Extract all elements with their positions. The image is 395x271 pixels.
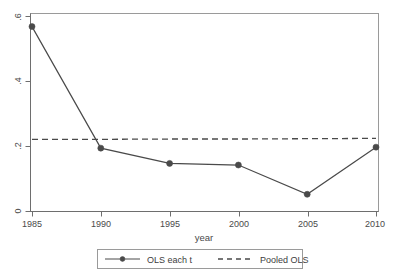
y-axis-ticks — [26, 17, 31, 212]
x-tick-label-0: 1985 — [22, 219, 42, 229]
y-tick-label-2: .4 — [13, 77, 23, 85]
series-pooled-ols-line — [32, 138, 376, 139]
x-tick-label-5: 2010 — [365, 219, 385, 229]
data-point-marker — [29, 24, 35, 30]
chart-figure: 0 .2 .4 .6 1985 1990 1995 2000 2005 2010… — [0, 0, 395, 271]
data-point-marker — [373, 144, 379, 150]
x-tick-label-2: 1995 — [160, 219, 180, 229]
legend-label-pooled-ols: Pooled OLS — [260, 255, 309, 265]
y-tick-label-3: .6 — [13, 13, 23, 21]
x-tick-label-3: 2000 — [229, 219, 249, 229]
series-ols-each-t-markers — [29, 24, 379, 198]
x-axis-ticks — [33, 212, 377, 217]
series-ols-each-t-line — [32, 27, 376, 195]
x-axis-title: year — [195, 232, 213, 243]
data-point-marker — [167, 160, 173, 166]
data-point-marker — [235, 162, 241, 168]
legend-label-ols-each-t: OLS each t — [147, 255, 193, 265]
x-tick-label-4: 2005 — [298, 219, 318, 229]
data-point-marker — [304, 191, 310, 197]
y-tick-label-1: .2 — [13, 142, 23, 150]
data-point-marker — [98, 145, 104, 151]
y-tick-label-0: 0 — [13, 208, 23, 213]
x-tick-label-1: 1990 — [91, 219, 111, 229]
legend-marker-ols-each-t — [120, 257, 125, 262]
chart-legend: OLS each t Pooled OLS — [98, 250, 309, 269]
line-chart-svg: 0 .2 .4 .6 1985 1990 1995 2000 2005 2010… — [0, 0, 395, 271]
